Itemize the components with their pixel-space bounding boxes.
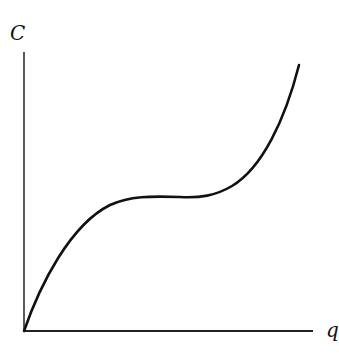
- cost-curve-diagram: C q: [0, 0, 339, 360]
- cost-curve: [24, 65, 299, 331]
- x-axis-label: q: [326, 318, 339, 342]
- y-axis-label: C: [10, 21, 25, 45]
